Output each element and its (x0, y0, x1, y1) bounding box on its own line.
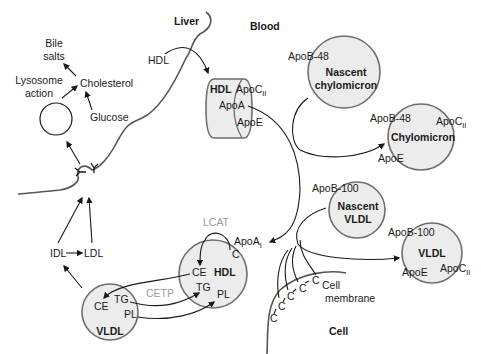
bile-salts-label: Bile (45, 37, 63, 49)
lipoprotein-metabolism-diagram: Bile salts Lysosome action Cholesterol G… (0, 0, 481, 354)
cholesterol-label: Cholesterol (80, 77, 133, 89)
svg-text:ApoE: ApoE (378, 152, 404, 164)
svg-text:Chylomicron: Chylomicron (391, 131, 455, 143)
svg-text:C: C (299, 282, 307, 294)
ldl-label: LDL (84, 247, 103, 259)
svg-text:VLDL: VLDL (418, 247, 446, 259)
svg-text:PL: PL (124, 308, 137, 320)
vldl-blood-particle: ApoB-100 VLDL ApoE ApoCII (388, 223, 470, 283)
svg-text:ApoB-100: ApoB-100 (388, 226, 435, 238)
svg-text:VLDL: VLDL (344, 213, 372, 225)
svg-text:TG: TG (114, 293, 129, 305)
glucose-label: Glucose (90, 111, 129, 123)
lcat-label: LCAT (203, 216, 230, 228)
svg-text:Cell: Cell (322, 279, 340, 291)
svg-text:salts: salts (43, 50, 65, 62)
svg-text:VLDL: VLDL (96, 325, 124, 337)
liver-region-label: Liver (174, 15, 199, 27)
svg-text:action: action (25, 87, 53, 99)
svg-text:ApoE: ApoE (237, 116, 263, 128)
svg-text:membrane: membrane (325, 292, 375, 304)
svg-text:HDL: HDL (210, 83, 232, 95)
svg-text:C: C (232, 248, 240, 260)
svg-text:CE: CE (94, 300, 109, 312)
hdl-incoming-label: HDL (148, 54, 169, 66)
svg-text:ApoA: ApoA (219, 99, 245, 111)
svg-text:PL: PL (217, 288, 230, 300)
idl-label: IDL (50, 247, 67, 259)
svg-text:TG: TG (196, 281, 211, 293)
svg-text:ApoB-48: ApoB-48 (370, 112, 411, 124)
lysosome (40, 103, 72, 135)
cell-region-label: Cell (329, 325, 348, 337)
svg-text:ApoB-100: ApoB-100 (312, 182, 359, 194)
lysosome-action-label: Lysosome (15, 74, 63, 86)
svg-text:C: C (312, 274, 320, 286)
svg-text:C: C (278, 300, 286, 312)
cetp-label: CETP (146, 287, 174, 299)
nascent-chylomicron: ApoB-48 Nascent chylomicron (288, 36, 380, 108)
svg-text:CE: CE (192, 266, 207, 278)
svg-text:ApoE: ApoE (402, 266, 428, 278)
hdl-liver-particle: HDL ApoCII ApoA ApoE (206, 79, 266, 138)
svg-text:chylomicron: chylomicron (315, 79, 377, 91)
chylomicron: ApoB-48 Chylomicron ApoCII ApoE (370, 104, 466, 170)
svg-text:HDL: HDL (214, 266, 236, 278)
hdl-cell-particle: LCAT ApoAI C CE HDL TG PL (179, 216, 262, 308)
svg-text:Nascent: Nascent (338, 200, 379, 212)
nascent-vldl: ApoB-100 Nascent VLDL (312, 182, 385, 238)
svg-text:Nascent: Nascent (326, 66, 367, 78)
blood-region-label: Blood (250, 20, 280, 32)
svg-text:ApoB-48: ApoB-48 (288, 50, 329, 62)
